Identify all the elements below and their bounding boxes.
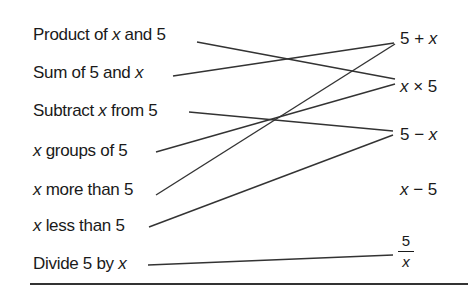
variable: x: [112, 25, 120, 44]
variable: x: [400, 77, 409, 96]
fraction-denominator: x: [398, 253, 414, 271]
sum-expr: 5 + x: [400, 29, 437, 49]
fraction-bar: [398, 251, 414, 252]
fraction-expression: 5 x: [398, 232, 414, 271]
variable: x: [135, 63, 143, 82]
connector-more: [156, 44, 395, 195]
phrase-text: Divide 5 by: [33, 254, 118, 273]
variable: x: [33, 216, 41, 235]
phrase-sum: Sum of 5 and x: [33, 63, 143, 83]
fraction-numerator: 5: [398, 232, 414, 250]
variable: x: [400, 180, 409, 199]
minus-expr: 5 − x: [400, 125, 437, 145]
expr-text: 5 −: [400, 125, 429, 144]
phrase-text: more than 5: [41, 180, 133, 199]
variable: x: [33, 141, 41, 160]
phrase-text: from 5: [107, 101, 158, 120]
phrase-groups: x groups of 5: [33, 141, 127, 161]
connector-subtract: [189, 112, 393, 131]
phrase-text: Sum of 5 and: [33, 63, 135, 82]
phrase-text: groups of 5: [41, 141, 127, 160]
phrase-text: Product of: [33, 25, 112, 44]
phrase-text: and 5: [120, 25, 165, 44]
phrase-divide: Divide 5 by x: [33, 254, 126, 274]
expr-text: × 5: [409, 77, 438, 96]
expr-text: 5 +: [400, 29, 429, 48]
phrase-text: less than 5: [41, 216, 124, 235]
variable: x: [98, 101, 106, 120]
connector-less: [149, 135, 393, 227]
connector-sum: [173, 43, 394, 76]
connector-groups: [156, 84, 395, 152]
xminus-expr: x − 5: [400, 180, 437, 200]
variable: x: [118, 254, 126, 273]
phrase-less: x less than 5: [33, 216, 125, 236]
phrase-more: x more than 5: [33, 180, 133, 200]
expr-text: − 5: [409, 180, 438, 199]
connector-divide: [148, 255, 393, 265]
times-expr: x × 5: [400, 77, 437, 97]
bottom-rule: [30, 283, 468, 285]
phrase-product: Product of x and 5: [33, 25, 166, 45]
variable: x: [429, 29, 438, 48]
phrase-subtract: Subtract x from 5: [33, 101, 157, 121]
variable: x: [33, 180, 41, 199]
variable: x: [429, 125, 438, 144]
phrase-text: Subtract: [33, 101, 98, 120]
